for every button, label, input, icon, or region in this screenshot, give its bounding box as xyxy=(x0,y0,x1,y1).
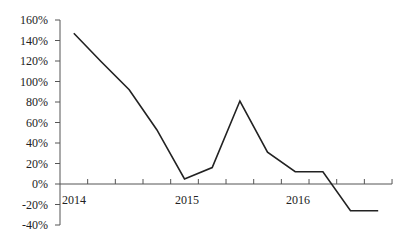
y-tick-label: -20% xyxy=(22,198,48,212)
y-tick-label: 140% xyxy=(20,34,48,48)
y-tick-label: 20% xyxy=(26,157,48,171)
x-category-label: 2016 xyxy=(286,193,310,207)
x-category-label: 2014 xyxy=(62,193,86,207)
x-category-label: 2015 xyxy=(175,193,199,207)
y-tick-label: 80% xyxy=(26,95,48,109)
y-tick-label: 160% xyxy=(20,13,48,27)
y-tick-label: -40% xyxy=(22,218,48,232)
y-tick-label: 0% xyxy=(32,177,48,191)
x-axis: 201420152016 xyxy=(60,179,392,207)
line-chart: 160%140%120%100%80%60%40%20%0%-20%-40% 2… xyxy=(0,0,411,245)
y-tick-label: 40% xyxy=(26,136,48,150)
y-tick-label: 60% xyxy=(26,116,48,130)
y-tick-label: 100% xyxy=(20,75,48,89)
y-axis: 160%140%120%100%80%60%40%20%0%-20%-40% xyxy=(20,13,60,232)
y-tick-label: 120% xyxy=(20,54,48,68)
